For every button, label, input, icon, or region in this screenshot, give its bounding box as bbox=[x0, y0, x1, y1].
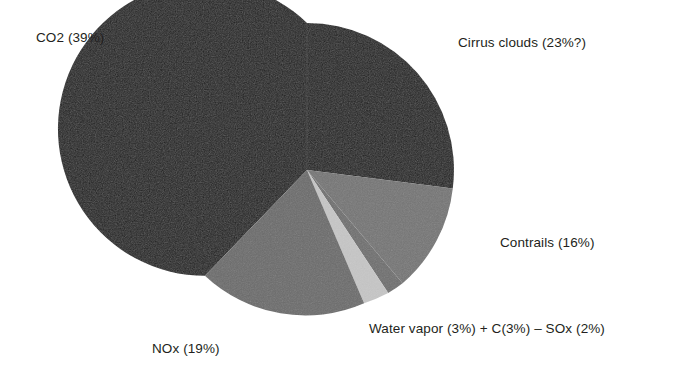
pie-label-water-vapor-group: Water vapor (3%) + C(3%) – SOx (2%) bbox=[369, 322, 605, 337]
pie-label-nox: NOx (19%) bbox=[152, 342, 220, 357]
pie-label-co2: CO2 (39%) bbox=[36, 31, 104, 46]
pie-label-cirrus-clouds: Cirrus clouds (23%?) bbox=[458, 36, 586, 51]
chart-plot-area: CO2 (39%) Cirrus clouds (23%?) Contrails… bbox=[0, 0, 695, 382]
pie-chart-figure: CO2 (39%) Cirrus clouds (23%?) Contrails… bbox=[0, 0, 695, 382]
pie-slice-cirrus-clouds[interactable] bbox=[307, 23, 454, 188]
pie-label-contrails: Contrails (16%) bbox=[500, 236, 595, 251]
